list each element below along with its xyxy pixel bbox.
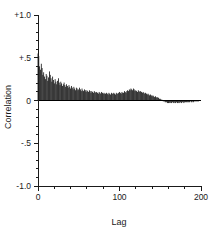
bar <box>116 93 117 101</box>
bar <box>121 94 122 101</box>
bar <box>43 75 44 101</box>
bar <box>155 96 156 100</box>
bar <box>63 84 64 100</box>
bar <box>154 97 155 100</box>
bar <box>41 64 42 101</box>
bar <box>108 95 109 101</box>
bar <box>135 91 136 100</box>
bar <box>113 93 114 101</box>
bar <box>85 90 86 100</box>
x-axis-title: Lag <box>111 217 126 227</box>
bar <box>82 90 83 100</box>
bar <box>73 89 74 100</box>
bar <box>52 77 53 101</box>
bar <box>46 74 47 101</box>
bar <box>147 95 148 101</box>
y-axis-tick-label: 0 <box>26 96 31 106</box>
bar <box>139 91 140 100</box>
bar <box>122 92 123 101</box>
bar <box>142 93 143 101</box>
bar <box>71 86 72 101</box>
bar <box>79 88 80 101</box>
bar <box>137 92 138 101</box>
bar <box>73 87 74 101</box>
bar <box>56 82 57 101</box>
bar <box>51 78 52 100</box>
bar <box>82 89 83 101</box>
bar <box>148 94 149 101</box>
bar <box>156 97 157 100</box>
bar <box>74 89 75 101</box>
bar <box>60 82 61 101</box>
bar <box>91 91 92 100</box>
bar <box>95 93 96 101</box>
y-axis-tick-label: +1.0 <box>14 10 31 20</box>
bar <box>94 91 95 100</box>
bar <box>39 66 40 100</box>
bar <box>83 91 84 100</box>
bar <box>50 75 51 101</box>
bar <box>152 96 153 100</box>
bar <box>43 72 44 100</box>
bar <box>117 94 118 101</box>
bar <box>70 89 71 101</box>
bar <box>86 92 87 101</box>
bar <box>62 86 63 101</box>
bar <box>87 90 88 100</box>
bar <box>148 95 149 101</box>
y-axis-tick-label: +.5 <box>19 53 31 63</box>
x-axis: 0100200 <box>36 186 209 202</box>
bar <box>104 94 105 101</box>
bar <box>150 95 151 101</box>
bar <box>87 91 88 100</box>
bar <box>100 93 101 101</box>
bar <box>84 89 85 100</box>
bar <box>44 77 45 101</box>
bar <box>145 93 146 101</box>
bar <box>65 87 66 101</box>
bar <box>81 91 82 100</box>
bar <box>144 94 145 101</box>
bar <box>135 90 136 100</box>
bar <box>131 89 132 101</box>
bar <box>59 83 60 101</box>
bar <box>38 56 39 100</box>
correlogram-chart: +1.0+.50-.5-1.0 0100200 Correlation Lag <box>0 0 212 230</box>
bar <box>124 91 125 100</box>
bar <box>61 83 62 100</box>
bar <box>119 92 120 101</box>
bar <box>131 89 132 100</box>
bar <box>58 78 59 100</box>
bar <box>76 88 77 101</box>
bar <box>153 96 154 100</box>
bar <box>118 93 119 101</box>
bar <box>100 94 101 101</box>
bar <box>66 84 67 100</box>
bar <box>90 91 91 100</box>
bar <box>56 84 57 100</box>
bar <box>77 89 78 101</box>
bar <box>123 93 124 101</box>
x-axis-tick-label: 200 <box>194 192 208 202</box>
bar <box>48 77 49 100</box>
bar <box>109 94 110 101</box>
bar <box>69 85 70 100</box>
x-axis-tick-label: 100 <box>112 192 126 202</box>
bar <box>88 92 89 101</box>
bar <box>91 93 92 101</box>
bar <box>49 71 50 100</box>
bar <box>60 85 61 100</box>
bar <box>144 93 145 101</box>
bar <box>110 95 111 101</box>
y-axis-tick-label: -1.0 <box>16 181 31 191</box>
bar <box>99 92 100 101</box>
bar <box>136 91 137 100</box>
bar <box>102 93 103 101</box>
bar <box>45 79 46 100</box>
bar <box>97 93 98 101</box>
bar <box>75 90 76 100</box>
bar <box>65 85 66 100</box>
bar <box>106 93 107 101</box>
bar <box>127 90 128 100</box>
bar <box>55 79 56 100</box>
